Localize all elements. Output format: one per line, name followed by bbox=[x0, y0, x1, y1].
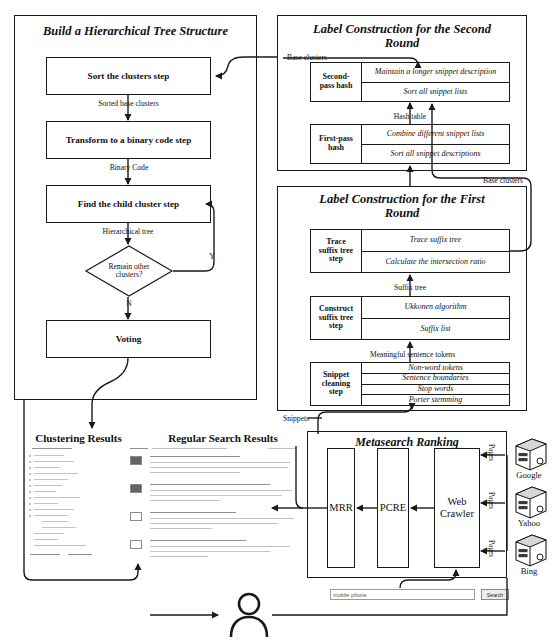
engine-yahoo-label: Yahoo bbox=[509, 518, 549, 528]
metasearch-column-web-crawler[interactable]: Web Crawler bbox=[434, 448, 480, 568]
edge-label-base-clusters-first: Base clusters bbox=[474, 176, 532, 185]
edge-label-sorted-base-clusters: Sorted base clusters bbox=[66, 99, 191, 108]
block-snippet-name-line3: step bbox=[329, 387, 343, 396]
block-first-pass-hash[interactable]: First-pass hash Combine different snippe… bbox=[310, 124, 510, 164]
block-trace-suffix-tree[interactable]: Trace suffix tree step Trace suffix tree… bbox=[310, 229, 510, 273]
figure-root: Build a Hierarchical Tree Structure Sort… bbox=[0, 0, 553, 642]
block-row: Non-word tokens bbox=[362, 363, 509, 374]
engine-google-label: Google bbox=[509, 470, 549, 480]
search-input[interactable]: mobile phone bbox=[330, 589, 475, 600]
block-second-pass-hash-name-line1: Second- bbox=[322, 72, 349, 81]
metasearch-column-mrr[interactable]: MRR bbox=[327, 448, 355, 568]
block-trace-name-line1: Trace bbox=[326, 237, 345, 246]
engine-bing-label: Bing bbox=[509, 566, 549, 576]
edge-label-pages-bing: Pages bbox=[487, 540, 496, 557]
decision-label-line2: clusters? bbox=[116, 270, 143, 279]
block-row: Stop words bbox=[362, 385, 509, 396]
decision-remain-other-clusters[interactable]: Remain other clusters? bbox=[85, 245, 173, 297]
edge-label-no: N bbox=[123, 299, 135, 308]
step-transform-binary[interactable]: Transform to a binary code step bbox=[46, 121, 211, 159]
edge-label-base-clusters-second: Base clusters bbox=[281, 53, 333, 62]
step-sort-clusters[interactable]: Sort the clusters step bbox=[46, 57, 211, 95]
server-icon bbox=[510, 437, 550, 471]
panel-build-tree-title: Build a Hierarchical Tree Structure bbox=[15, 24, 256, 38]
block-second-pass-hash-name: Second- pass hash bbox=[311, 63, 362, 101]
user-icon bbox=[225, 592, 273, 638]
metasearch-column-web-crawler-label: Web Crawler bbox=[435, 496, 479, 519]
panel-first-round-title-line1: Label Construction for the First bbox=[319, 192, 484, 206]
block-construct-name-line3: step bbox=[329, 321, 343, 330]
block-first-pass-hash-name: First-pass hash bbox=[311, 125, 362, 163]
clustering-results-panel[interactable] bbox=[26, 446, 104, 558]
edge-label-hash-table: Hash table bbox=[365, 112, 455, 121]
block-construct-suffix-tree[interactable]: Construct suffix tree step Ukkonen algor… bbox=[310, 296, 510, 340]
block-row: Maintain a longer snippet description bbox=[362, 63, 509, 83]
block-row: Sentence boundaries bbox=[362, 374, 509, 385]
block-trace-suffix-tree-name: Trace suffix tree step bbox=[311, 230, 362, 272]
block-trace-name-line3: step bbox=[329, 254, 343, 263]
block-row: Sort all snippet lists bbox=[362, 83, 509, 102]
server-icon bbox=[510, 485, 550, 519]
block-trace-rows: Trace suffix tree Calculate the intersec… bbox=[362, 230, 509, 272]
edge-label-snippets: Snippets bbox=[270, 414, 322, 423]
block-second-pass-hash-name-line2: pass hash bbox=[320, 81, 353, 90]
block-construct-suffix-tree-name: Construct suffix tree step bbox=[311, 297, 362, 339]
block-second-pass-hash-rows: Maintain a longer snippet description So… bbox=[362, 63, 509, 101]
block-snippet-name-line2: cleaning bbox=[322, 379, 350, 388]
regular-results-panel[interactable] bbox=[128, 446, 298, 564]
edge-label-pages-google: Pages bbox=[487, 444, 496, 461]
block-first-pass-hash-name-line2: hash bbox=[328, 143, 344, 152]
block-row: Ukkonen algorithm bbox=[362, 297, 509, 319]
block-first-pass-hash-rows: Combine different snippet lists Sort all… bbox=[362, 125, 509, 163]
engine-yahoo[interactable]: Yahoo bbox=[509, 485, 549, 529]
block-trace-name-line2: suffix tree bbox=[319, 246, 353, 255]
block-row: Suffix list bbox=[362, 319, 509, 340]
edge-label-meaningful-sentence-tokens: Meaningful sentence tokens bbox=[340, 350, 485, 359]
block-first-pass-hash-name-line1: First-pass bbox=[319, 134, 353, 143]
block-row: Sort all snippet descriptions bbox=[362, 145, 509, 164]
panel-second-round-title-line2: Round bbox=[385, 36, 420, 50]
block-construct-rows: Ukkonen algorithm Suffix list bbox=[362, 297, 509, 339]
block-row: Combine different snippet lists bbox=[362, 125, 509, 145]
block-second-pass-hash[interactable]: Second- pass hash Maintain a longer snip… bbox=[310, 62, 510, 102]
block-construct-name-line2: suffix tree bbox=[319, 313, 353, 322]
panel-first-round-title: Label Construction for the First Round bbox=[278, 192, 526, 221]
step-voting[interactable]: Voting bbox=[46, 320, 211, 358]
engine-bing[interactable]: Bing bbox=[509, 533, 549, 577]
regular-results-heading: Regular Search Results bbox=[148, 432, 298, 444]
edge-label-yes: Y bbox=[206, 252, 218, 261]
block-row: Trace suffix tree bbox=[362, 230, 509, 252]
search-button[interactable]: Search bbox=[481, 589, 509, 600]
clustering-results-heading: Clustering Results bbox=[16, 432, 141, 444]
step-find-child-cluster[interactable]: Find the child cluster step bbox=[46, 185, 211, 223]
edge-label-pages-yahoo: Pages bbox=[487, 492, 496, 509]
edge-label-hierarchical-tree: Hierarchical tree bbox=[68, 227, 188, 236]
edge-label-binary-code: Binary Code bbox=[79, 163, 179, 172]
engine-google[interactable]: Google bbox=[509, 437, 549, 481]
panel-first-round-title-line2: Round bbox=[385, 206, 420, 220]
block-snippet-name-line1: Snippet bbox=[323, 370, 349, 379]
block-snippet-cleaning[interactable]: Snippet cleaning step Non-word tokens Se… bbox=[310, 362, 510, 406]
panel-second-round-title: Label Construction for the Second Round bbox=[278, 22, 526, 51]
block-row: Porter stemming bbox=[362, 395, 509, 405]
block-snippet-rows: Non-word tokens Sentence boundaries Stop… bbox=[362, 363, 509, 405]
block-snippet-cleaning-name: Snippet cleaning step bbox=[311, 363, 362, 405]
server-icon bbox=[510, 533, 550, 567]
block-construct-name-line1: Construct bbox=[319, 304, 353, 313]
decision-label: Remain other clusters? bbox=[85, 263, 173, 280]
block-row: Calculate the intersection ratio bbox=[362, 252, 509, 273]
edge-label-suffix-tree: Suffix tree bbox=[370, 283, 450, 292]
metasearch-column-pcre[interactable]: PCRE bbox=[377, 448, 409, 568]
panel-second-round-title-line1: Label Construction for the Second bbox=[313, 22, 491, 36]
